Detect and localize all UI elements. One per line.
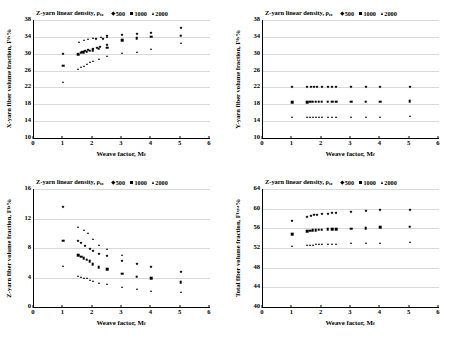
x-tick-label: 5: [407, 308, 410, 315]
data-point-500: [326, 212, 329, 215]
x-tick-label: 1: [290, 139, 293, 146]
gridline: [263, 37, 439, 38]
data-point-500: [179, 27, 182, 30]
x-tick-label: 2: [319, 139, 322, 146]
gridline: [34, 37, 210, 38]
gridline: [34, 219, 210, 220]
y-tick-label: 22: [253, 82, 260, 89]
data-point-500: [135, 263, 138, 266]
legend-item-label: 500: [116, 10, 125, 17]
legend-item-2000[interactable]: 2000: [152, 10, 168, 17]
data-point-2000: [306, 244, 308, 246]
gridline: [34, 87, 210, 88]
x-tick-label: 3: [348, 139, 351, 146]
x-tick-label: 4: [149, 308, 152, 315]
y-tick-label: 44: [253, 282, 260, 289]
x-tick-label: 0: [31, 308, 34, 315]
data-point-1000: [326, 228, 329, 231]
triangle-marker-icon: [152, 181, 154, 184]
legend-item-2000[interactable]: 2000: [152, 179, 168, 186]
legend-item-1000[interactable]: 1000: [359, 179, 376, 186]
legend-item-2000[interactable]: 2000: [381, 10, 397, 17]
x-tick-label: 2: [90, 308, 93, 315]
data-point-2000: [87, 232, 89, 234]
data-point-1000: [364, 100, 367, 103]
x-tick-label: 6: [436, 308, 439, 315]
y-tick-label: 34: [24, 31, 31, 38]
plot-area: [33, 189, 210, 308]
triangle-marker-icon: [381, 181, 383, 184]
data-point-500: [62, 52, 65, 55]
x-tick-label: 0: [31, 139, 34, 146]
data-point-2000: [291, 245, 293, 247]
y-tick-label: 30: [253, 48, 260, 55]
y-tick-label: 26: [253, 65, 260, 72]
y-axis-label-text: Total fiber volume fraction, F: [234, 214, 241, 297]
data-point-1000: [331, 228, 334, 231]
data-point-1000: [291, 233, 294, 236]
gridline: [263, 248, 439, 249]
data-point-2000: [150, 290, 152, 292]
data-point-2000: [121, 254, 123, 256]
y-tick-label: 18: [24, 99, 31, 106]
data-point-2000: [315, 116, 317, 118]
data-point-2000: [331, 243, 333, 245]
legend-item-1000[interactable]: 1000: [359, 10, 376, 17]
square-marker-icon: [130, 181, 133, 184]
data-point-2000: [92, 280, 94, 282]
x-axis-label-subscript: f: [373, 321, 375, 326]
legend-title-text: Z-yarn linear density,: [265, 178, 326, 185]
data-point-2000: [350, 116, 352, 118]
data-point-2000: [365, 242, 367, 244]
data-point-1000: [135, 275, 138, 278]
legend-title: Z-yarn linear density, ρtz: [36, 9, 104, 17]
legend-item-500[interactable]: 500: [112, 179, 125, 186]
legend-item-label: 2000: [155, 10, 167, 17]
data-point-1000: [320, 229, 323, 232]
y-tick-label: 14: [24, 116, 31, 123]
data-point-1000: [350, 100, 353, 103]
data-point-2000: [106, 248, 108, 250]
legend-item-500[interactable]: 500: [341, 179, 354, 186]
legend-title-subscript: tz: [100, 181, 104, 186]
x-tick-label: 4: [378, 139, 381, 146]
legend-item-label: 2000: [155, 179, 167, 186]
data-point-2000: [309, 116, 311, 118]
data-point-1000: [179, 281, 182, 284]
legend-item-1000[interactable]: 1000: [130, 10, 147, 17]
y-axis-label-unit: %: [234, 199, 241, 206]
data-point-2000: [312, 116, 314, 118]
data-point-1000: [320, 100, 323, 103]
legend-item-label: 1000: [134, 10, 146, 17]
legend-item-500[interactable]: 500: [341, 10, 354, 17]
data-point-500: [97, 252, 100, 255]
data-point-500: [79, 241, 82, 244]
diamond-marker-icon: [340, 11, 344, 15]
data-point-2000: [92, 37, 94, 39]
data-point-1000: [121, 39, 124, 42]
legend-item-500[interactable]: 500: [112, 10, 125, 17]
legend-item-2000[interactable]: 2000: [381, 179, 397, 186]
x-axis-label-subscript: f: [144, 152, 146, 157]
data-point-2000: [321, 116, 323, 118]
x-axis-label-text: Weave factor, M: [96, 150, 144, 157]
legend-item-1000[interactable]: 1000: [130, 179, 147, 186]
x-tick-label: 0: [260, 308, 263, 315]
data-point-1000: [97, 47, 100, 50]
x-tick-label: 4: [378, 308, 381, 315]
data-point-500: [120, 259, 123, 262]
gridline: [263, 104, 439, 105]
data-point-1000: [379, 226, 382, 229]
data-point-500: [330, 212, 333, 215]
gridline: [34, 248, 210, 249]
gridline: [263, 20, 439, 21]
x-tick-label: 3: [348, 308, 351, 315]
y-tick-label: 38: [253, 15, 260, 22]
legend-title-text: Z-yarn linear density,: [36, 178, 97, 185]
legend-title: Z-yarn linear density, ρtz: [265, 9, 333, 17]
y-tick-label: 40: [253, 302, 260, 309]
y-axis-label: Total fiber volume fraction, Ffxyz%: [231, 187, 243, 309]
data-point-500: [330, 86, 333, 89]
legend-title-subscript: tz: [100, 12, 104, 17]
data-point-1000: [408, 100, 411, 103]
